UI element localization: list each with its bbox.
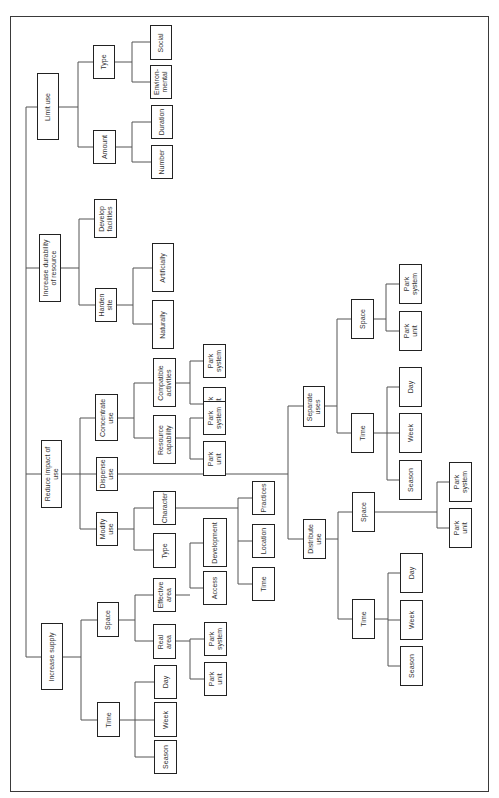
node-supply-week: Week — [154, 702, 177, 737]
node-modify-use: Modify use — [96, 512, 118, 546]
node-label: Duration — [158, 109, 166, 135]
node-label: Time — [105, 712, 113, 727]
node-label: Day — [408, 567, 416, 579]
node-label: Practices — [260, 484, 268, 513]
node-compatible-activities: Compatible activities — [153, 358, 176, 407]
node-label: Park system — [453, 471, 469, 493]
node-label: Develop facilities — [98, 206, 114, 232]
node-label: Season — [407, 468, 415, 492]
node-label: Time — [360, 611, 368, 626]
connector-lines — [0, 0, 499, 798]
node-sep-park-unit: Park unit — [399, 311, 422, 351]
node-label: Park unit — [453, 521, 469, 535]
node-separate-uses: Separate uses — [303, 386, 325, 427]
node-label: Location — [260, 528, 268, 554]
node-increase-durability: Increase durability of resource — [39, 234, 61, 302]
node-label: Development — [211, 522, 219, 563]
node-dist-time: Time — [352, 599, 375, 639]
node-dist-day: Day — [400, 553, 423, 593]
node-label: Park unit — [208, 672, 224, 686]
node-label: Concentrate use — [99, 398, 115, 436]
node-label: Day — [162, 676, 170, 688]
node-ra-park-system: Park system — [204, 622, 227, 656]
node-label: Distribute use — [307, 524, 323, 554]
node-label: Park system — [403, 273, 419, 295]
node-label: Space — [359, 309, 367, 329]
node-label: Increase supply — [48, 632, 56, 681]
node-sep-space: Space — [351, 299, 374, 339]
node-dispense-use: Dispense use — [96, 457, 118, 491]
node-supply-space: Space — [97, 602, 119, 637]
node-label: Day — [407, 381, 415, 393]
node-resource-capability: Resource capability — [153, 415, 176, 464]
node-supply-day: Day — [154, 665, 177, 699]
node-modify-type: Type — [153, 533, 176, 568]
node-char-time: Time — [252, 567, 275, 601]
node-artificially: Artificially — [152, 243, 174, 292]
node-label: Modify use — [99, 519, 115, 540]
node-label: Access — [211, 577, 219, 600]
node-rc-park-system: Park system — [203, 401, 226, 435]
node-naturally: Naturally — [152, 300, 174, 349]
node-label: Park unit — [207, 451, 223, 465]
node-social: Social — [150, 25, 172, 60]
node-dist-season: Season — [400, 646, 423, 686]
node-label: Amount — [101, 135, 109, 159]
node-dist-park-system: Park system — [449, 462, 472, 502]
node-label: Week — [408, 611, 416, 629]
node-real-area: Real area — [153, 624, 176, 659]
node-reduce-impact: Reduce impact of use — [41, 440, 62, 508]
node-label: Separate uses — [306, 392, 322, 420]
node-label: Park system — [207, 350, 223, 372]
node-limit-amount: Amount — [93, 130, 116, 164]
node-label: Week — [162, 711, 170, 729]
node-label: Harden site — [98, 294, 114, 317]
node-label: Park system — [207, 407, 223, 429]
node-label: Type — [100, 54, 108, 69]
node-dist-week: Week — [400, 600, 423, 640]
node-label: Space — [104, 610, 112, 630]
node-location: Location — [252, 524, 275, 558]
node-label: Type — [161, 543, 169, 558]
node-number: Number — [151, 145, 173, 179]
node-label: Time — [260, 576, 268, 591]
node-label: Naturally — [159, 311, 167, 339]
node-ra-park-unit: Park unit — [204, 662, 227, 696]
node-label: Park unit — [403, 324, 419, 338]
node-sep-season: Season — [399, 460, 422, 500]
node-character: Character — [153, 491, 176, 525]
node-label: Resource capability — [157, 425, 173, 455]
node-duration: Duration — [151, 105, 173, 139]
node-label: Environ- mental — [153, 69, 169, 95]
node-environmental: Environ- mental — [150, 65, 172, 99]
node-label: Season — [162, 745, 170, 769]
node-label: Season — [408, 654, 416, 678]
node-sep-week: Week — [399, 413, 422, 453]
node-concentrate-use: Concentrate use — [95, 394, 118, 441]
node-development: Development — [203, 518, 227, 567]
node-develop-facilities: Develop facilities — [94, 199, 117, 238]
node-limit-type: Type — [93, 45, 115, 79]
node-harden-site: Harden site — [95, 288, 117, 322]
node-sep-time: Time — [351, 413, 374, 453]
node-distribute-use: Distribute use — [303, 519, 326, 559]
node-label: Increase durability of resource — [42, 240, 58, 297]
node-label: Number — [158, 150, 166, 175]
node-label: Time — [359, 425, 367, 440]
node-sep-park-system: Park system — [399, 264, 422, 304]
node-label: Real area — [157, 634, 173, 648]
node-label: Compatible activities — [157, 365, 173, 400]
node-ca-park-system: Park system — [203, 344, 226, 378]
node-sep-day: Day — [399, 367, 422, 407]
node-label: Character — [161, 493, 169, 524]
node-limit-use: Limit use — [37, 73, 59, 140]
node-access: Access — [203, 571, 227, 605]
node-label: Dispense use — [99, 459, 115, 488]
node-practices: Practices — [252, 481, 275, 515]
node-label: Social — [157, 33, 165, 52]
node-label: Space — [360, 502, 368, 522]
node-rc-park-unit: Park unit — [203, 441, 226, 476]
node-effective-area: Effective area — [153, 578, 176, 612]
node-supply-time: Time — [97, 702, 120, 737]
node-label: Reduce impact of use — [44, 447, 60, 501]
